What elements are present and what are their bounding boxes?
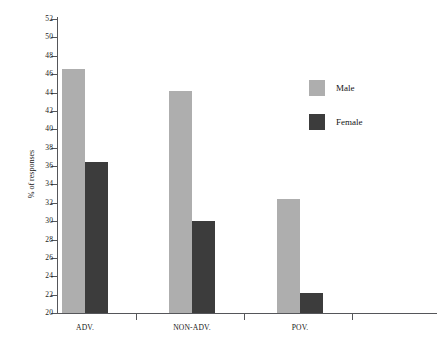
bar-pov-female — [300, 293, 323, 313]
x-axis-line — [57, 313, 437, 314]
y-tick-label: 22 — [45, 291, 53, 299]
y-tick-label: 32 — [45, 199, 53, 207]
x-category-label: POV. — [292, 324, 309, 332]
chart-legend: Male Female — [309, 80, 363, 148]
plot-area: 2022242628303234363840424446485052 — [57, 19, 437, 313]
y-tick-label: 40 — [45, 126, 53, 134]
bar-adv-male — [62, 69, 85, 313]
x-tick-mark — [244, 313, 245, 320]
legend-swatch-male-icon — [309, 80, 325, 96]
legend-item-female: Female — [309, 114, 363, 130]
y-tick-label: 42 — [45, 107, 53, 115]
y-tick-label: 20 — [45, 309, 53, 317]
y-axis-title: % of responses — [28, 149, 36, 197]
y-tick-label: 46 — [45, 70, 53, 78]
bar-pov-male — [277, 199, 300, 313]
bar-chart-figure: % of responses 2022242628303234363840424… — [0, 0, 442, 347]
y-tick-label: 34 — [45, 181, 53, 189]
legend-swatch-female-icon — [309, 114, 325, 130]
y-tick-label: 28 — [45, 236, 53, 244]
legend-label-female: Female — [336, 118, 363, 127]
x-category-label: NON-ADV. — [173, 324, 211, 332]
bar-nonadv-female — [192, 221, 215, 313]
y-tick-label: 52 — [45, 15, 53, 23]
y-tick-label: 24 — [45, 273, 53, 281]
legend-label-male: Male — [336, 84, 355, 93]
x-category-label: ADV. — [76, 324, 94, 332]
y-tick-label: 26 — [45, 254, 53, 262]
y-tick-label: 48 — [45, 52, 53, 60]
y-tick-label: 36 — [45, 162, 53, 170]
y-tick-label: 38 — [45, 144, 53, 152]
y-tick-label: 30 — [45, 217, 53, 225]
bar-nonadv-male — [169, 91, 192, 313]
y-tick-label: 44 — [45, 89, 53, 97]
bar-adv-female — [85, 162, 108, 313]
x-tick-mark — [136, 313, 137, 320]
legend-item-male: Male — [309, 80, 363, 96]
y-tick-label: 50 — [45, 34, 53, 42]
x-tick-mark — [352, 313, 353, 320]
